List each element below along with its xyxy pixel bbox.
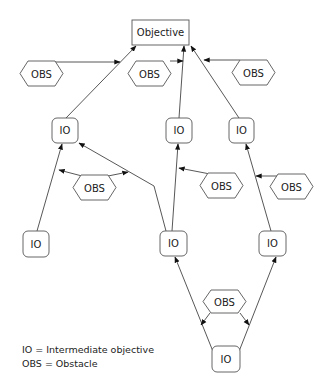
- obs-label: OBS: [214, 297, 235, 308]
- io-node-mid-right: IO: [259, 231, 286, 256]
- edge-obs-mid-center: [179, 168, 210, 174]
- edge-obs-mid-left-left: [59, 170, 82, 176]
- io-label: IO: [221, 354, 232, 365]
- edge-obs-bottom-left: [201, 313, 210, 325]
- io-label: IO: [174, 125, 185, 136]
- edge-obs-bottom-right: [240, 313, 249, 325]
- edge-obs-mid-left-right: [108, 172, 128, 176]
- io-node-bottom: IO: [212, 346, 240, 372]
- legend: IO = Intermediate objective OBS = Obstac…: [22, 343, 154, 371]
- io-label: IO: [168, 238, 179, 249]
- edge-io-mid-center-to-io-top-mid: [172, 144, 178, 231]
- obs-label: OBS: [139, 69, 160, 80]
- objective-node: Objective: [132, 20, 189, 45]
- edge-io-mid-right-to-io-top-right: [246, 144, 271, 231]
- edge-io-top-left-to-objective: [66, 46, 136, 118]
- obs-node-mid-left: OBS: [73, 175, 116, 200]
- edge-io-mid-left-to-io-top-left: [37, 144, 62, 231]
- edge-io-top-mid-to-objective: [179, 46, 184, 118]
- io-label: IO: [31, 239, 42, 250]
- io-node-top-mid: IO: [166, 118, 192, 143]
- io-node-top-left: IO: [52, 118, 78, 143]
- obs-label: OBS: [211, 181, 232, 192]
- legend-io: IO = Intermediate objective: [22, 343, 154, 357]
- objective-label: Objective: [137, 27, 184, 38]
- obs-node-mid-center: OBS: [200, 173, 243, 198]
- obs-label: OBS: [243, 68, 264, 79]
- io-label: IO: [267, 238, 278, 249]
- io-node-mid-left: IO: [23, 231, 49, 257]
- io-label: IO: [236, 125, 247, 136]
- obs-node-top-left: OBS: [20, 61, 63, 86]
- obs-label: OBS: [84, 183, 105, 194]
- io-node-top-right: IO: [229, 118, 254, 143]
- obs-node-top-right: OBS: [232, 60, 275, 85]
- obs-node-top-mid: OBS: [128, 61, 171, 86]
- obstacle-diagram: Objective IO IO IO IO IO IO IO OBS OBS O…: [0, 0, 332, 388]
- legend-obs: OBS = Obstacle: [22, 357, 154, 371]
- obs-node-bottom: OBS: [203, 290, 246, 313]
- edge-io-top-right-to-objective: [191, 46, 239, 118]
- obs-label: OBS: [281, 182, 302, 193]
- obs-node-mid-right: OBS: [270, 174, 313, 199]
- io-label: IO: [60, 125, 71, 136]
- obs-label: OBS: [31, 69, 52, 80]
- io-node-mid-center: IO: [160, 231, 187, 256]
